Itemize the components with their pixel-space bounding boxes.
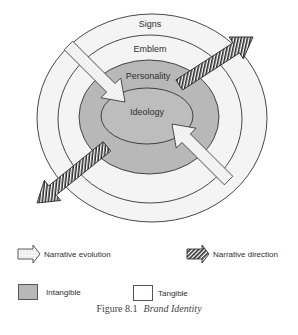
legend-intangible: Intangible	[18, 284, 81, 300]
striped-arrow-icon	[186, 244, 210, 264]
figure-number: Figure 8.1	[96, 303, 137, 314]
tangible-swatch	[133, 285, 153, 301]
label-personality: Personality	[126, 71, 171, 81]
label-ideology: Ideology	[130, 107, 165, 117]
figure-title: Brand Identity	[144, 303, 202, 314]
label-signs: Signs	[139, 19, 162, 29]
legend-label-narrative-evolution: Narrative evolution	[44, 250, 111, 259]
legend-label-narrative-direction: Narrative direction	[213, 250, 278, 259]
legend-narrative-evolution: Narrative evolution	[17, 244, 111, 264]
label-emblem: Emblem	[133, 44, 166, 54]
legend-narrative-direction: Narrative direction	[186, 244, 278, 264]
legend-label-tangible: Tangible	[158, 289, 188, 298]
figure-caption: Figure 8.1Brand Identity	[0, 303, 298, 314]
intangible-swatch	[18, 284, 38, 300]
legend-tangible: Tangible	[133, 285, 188, 301]
brand-identity-diagram: Signs Emblem Personality Ideology	[0, 0, 298, 240]
dotted-arrow-icon	[17, 244, 41, 264]
legend-label-intangible: Intangible	[46, 288, 81, 297]
